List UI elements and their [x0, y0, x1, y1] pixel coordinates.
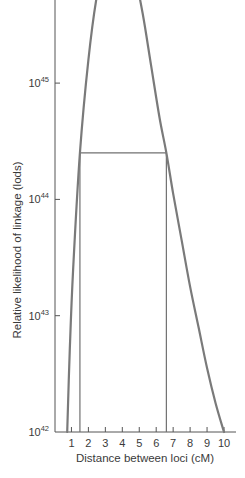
y-axis-title: Relative likelihood of linkage (lods): [11, 161, 23, 338]
x-tick-label: 2: [85, 437, 91, 449]
axes: [55, 0, 236, 432]
x-tick-label: 7: [170, 437, 176, 449]
y-tick-label: 1045: [28, 75, 49, 89]
y-tick-label: 1043: [28, 308, 49, 322]
x-axis-title: Distance between loci (cM): [76, 452, 214, 464]
likelihood-chart: 12345678910 1042104310441045 Distance be…: [0, 0, 245, 478]
x-tick-label: 3: [102, 437, 108, 449]
likelihood-curve: [67, 0, 224, 432]
x-tick-label: 6: [153, 437, 159, 449]
confidence-interval-box: [80, 153, 166, 432]
x-tick-label: 9: [204, 437, 210, 449]
x-tick-label: 8: [187, 437, 193, 449]
y-tick-label: 1042: [28, 424, 49, 438]
y-tick-label: 1044: [28, 191, 49, 205]
x-ticks: 12345678910: [68, 427, 230, 449]
x-tick-label: 4: [119, 437, 125, 449]
x-tick-label: 10: [218, 437, 230, 449]
x-tick-label: 1: [68, 437, 74, 449]
x-tick-label: 5: [136, 437, 142, 449]
